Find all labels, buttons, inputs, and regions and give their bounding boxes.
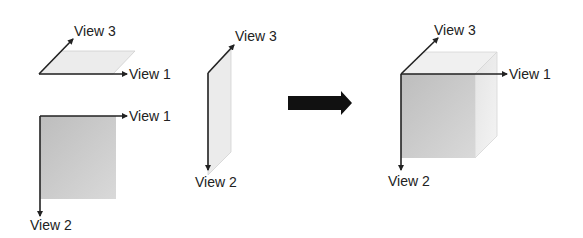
right-arrow-icon	[288, 91, 352, 115]
view1-label: View 1	[129, 108, 171, 124]
view1-label: View 1	[129, 66, 171, 82]
cube-front-face	[401, 74, 475, 158]
view3-label: View 3	[74, 23, 116, 39]
view2-label: View 2	[195, 174, 237, 190]
view2-label: View 2	[30, 217, 72, 233]
view3-label: View 3	[434, 22, 476, 38]
diagram-canvas: View 3 View 1 View 1 View 2 View 3 View …	[0, 0, 583, 238]
view1-label: View 1	[509, 66, 551, 82]
combined-cube-panel: View 3 View 1 View 2	[388, 22, 551, 189]
view3-label: View 3	[235, 28, 277, 44]
side-plane-panel: View 3 View 2	[195, 28, 277, 190]
view2-label: View 2	[388, 173, 430, 189]
front-plane-face	[40, 116, 116, 199]
top-plane-face	[39, 51, 135, 74]
front-plane-panel: View 1 View 2	[30, 108, 171, 233]
top-plane-panel: View 3 View 1	[39, 23, 171, 82]
